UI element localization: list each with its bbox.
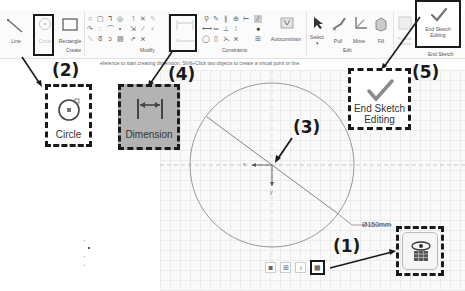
dimension-tool-callout: Dimension [118, 84, 180, 150]
diameter-dimension[interactable]: Ø150mm [362, 221, 391, 228]
stray-marks [84, 240, 88, 270]
circle-tool-callout: Circle [45, 84, 92, 147]
end-sketch-callout-label-1: End Sketch [351, 103, 408, 114]
snap-view-button[interactable]: ♁ [295, 262, 306, 273]
end-sketch-callout-label-2: Editing [351, 114, 408, 125]
callout-number-2: (2) [52, 60, 79, 80]
grid-view-button[interactable]: ⊞ [280, 262, 291, 273]
callout-number-4: (4) [168, 64, 195, 84]
dimension-icon [135, 97, 165, 121]
end-sketch-editing-callout: End Sketch Editing [348, 68, 411, 130]
view-toolbar: ◙ ⊞ ♁ ▦ [265, 262, 335, 274]
solid-view-button[interactable]: ◙ [265, 262, 276, 273]
plan-view-button[interactable]: ▦ [310, 260, 325, 275]
dimension-callout-label: Dimension [121, 129, 177, 140]
plan-view-icon [409, 239, 433, 263]
circle-icon [56, 97, 82, 123]
callout-number-5: (5) [412, 62, 439, 82]
axis-y-label: y [270, 189, 273, 195]
callout-number-3: (3) [293, 117, 320, 137]
circle-callout-label: Circle [48, 129, 89, 140]
checkmark-icon [365, 79, 395, 103]
callout-number-1: (1) [333, 236, 360, 256]
axis-x-label: x [243, 161, 246, 167]
plan-view-callout [396, 226, 444, 276]
